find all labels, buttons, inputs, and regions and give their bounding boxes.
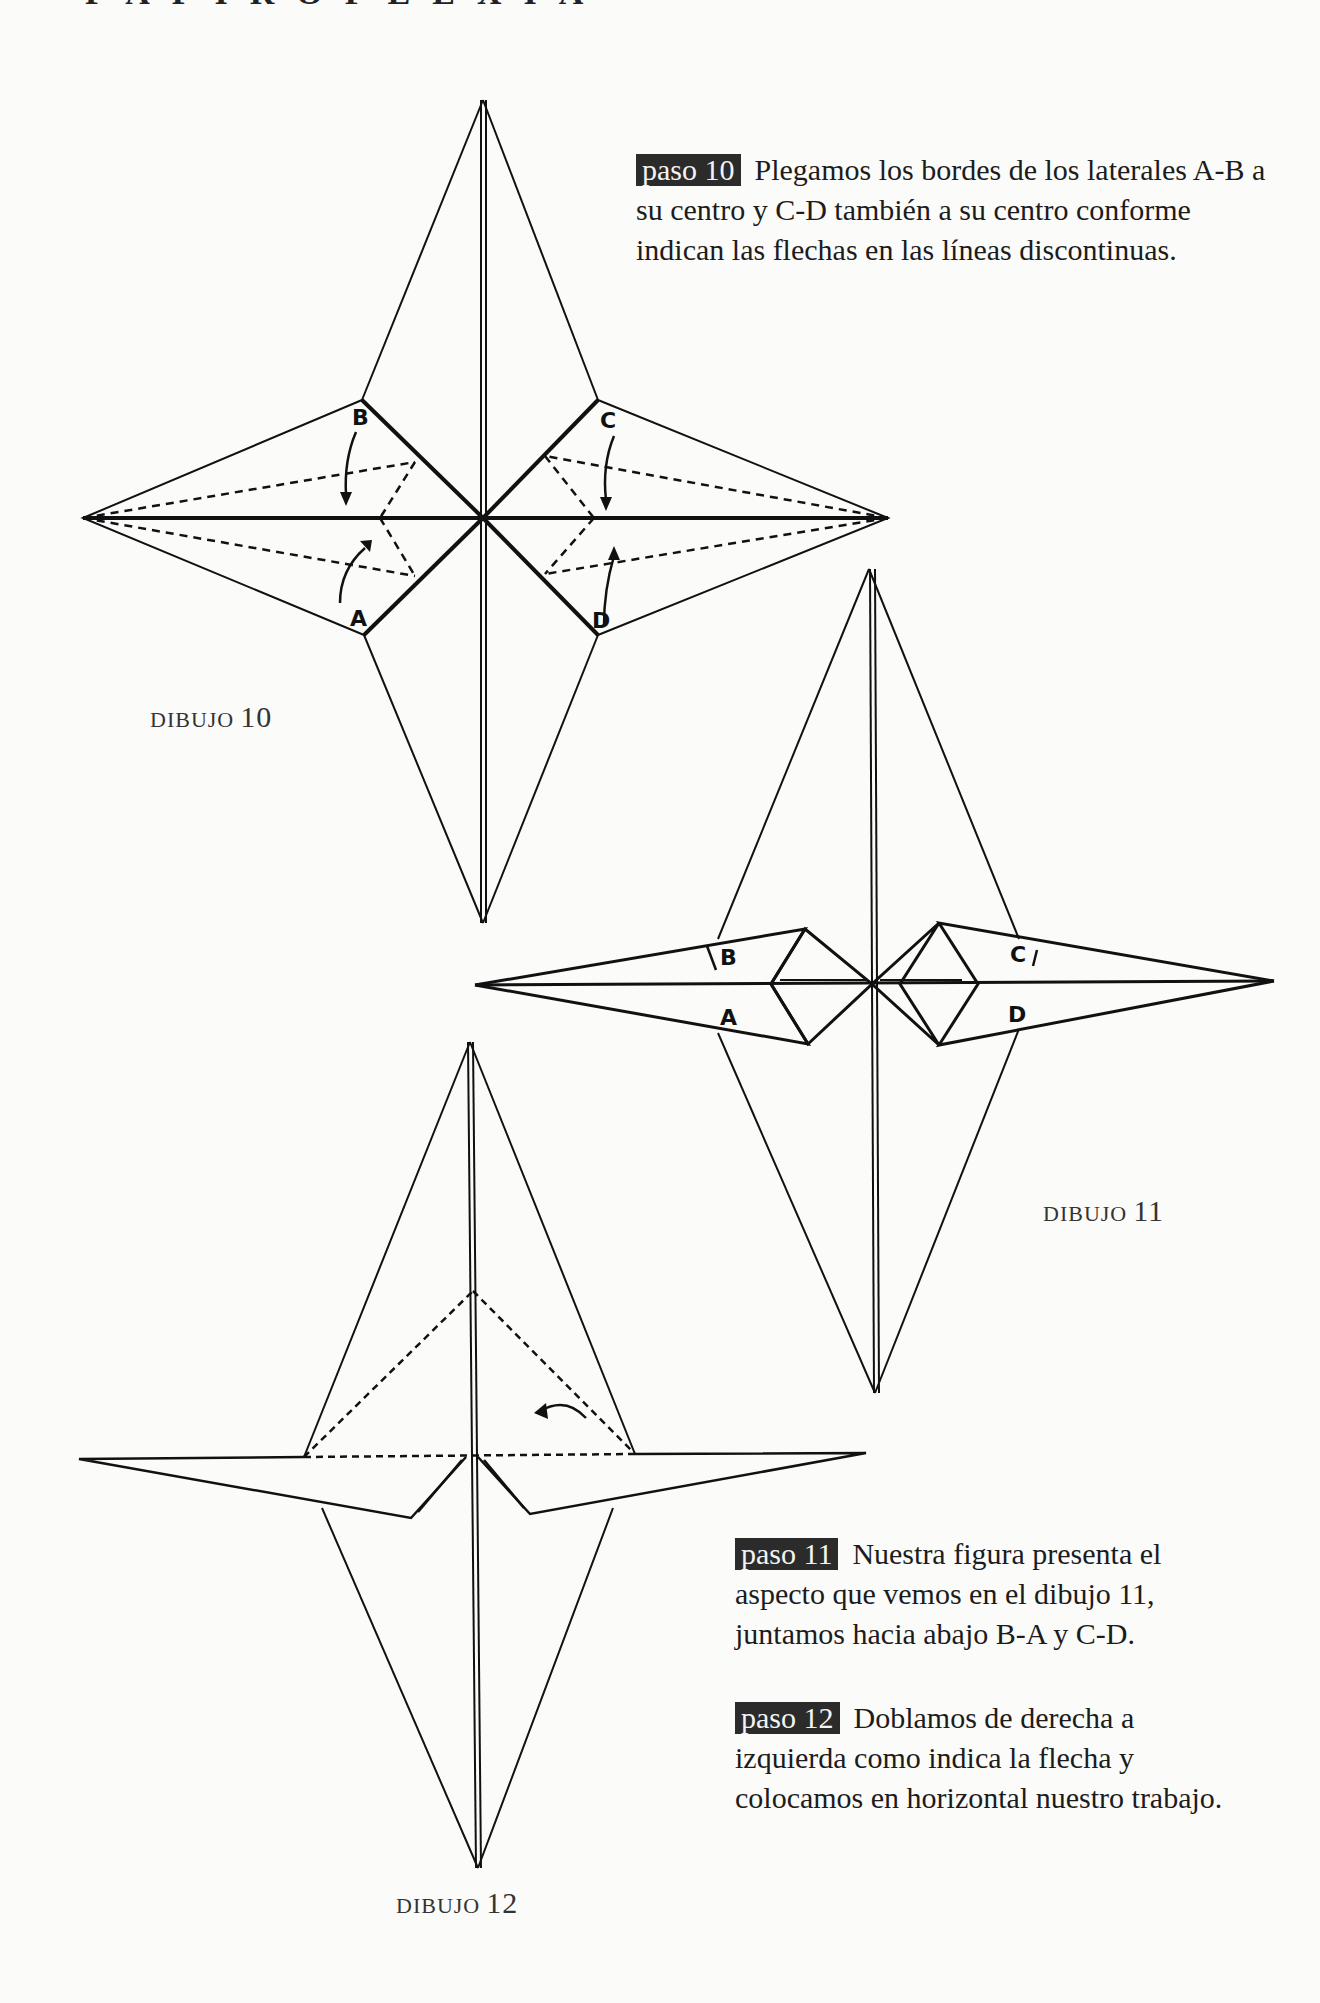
- point-c-label: C: [600, 408, 616, 433]
- step-11-instruction: paso 11Nuestra figura presenta el aspect…: [735, 1534, 1255, 1654]
- caption-number: 11: [1133, 1194, 1164, 1227]
- point-c-label: C: [1010, 942, 1026, 967]
- caption-number: 12: [486, 1886, 518, 1919]
- caption-label: DIBUJO: [396, 1893, 480, 1918]
- drawing-12-caption: DIBUJO12: [396, 1886, 518, 1920]
- point-b-label: B: [720, 945, 737, 970]
- caption-label: DIBUJO: [150, 707, 234, 732]
- step-12-instruction: paso 12Doblamos de derecha a izquierda c…: [735, 1698, 1235, 1818]
- step-badge: paso 12: [735, 1702, 840, 1734]
- drawing-11-caption: DIBUJO11: [1043, 1194, 1164, 1228]
- step-badge: paso 11: [735, 1538, 838, 1570]
- point-a-label: A: [350, 606, 367, 631]
- point-d-label: D: [1008, 1002, 1026, 1027]
- step-badge: paso 10: [636, 154, 741, 186]
- caption-label: DIBUJO: [1043, 1201, 1127, 1226]
- caption-number: 10: [240, 700, 272, 733]
- step-10-instruction: paso 10Plegamos los bordes de los latera…: [636, 150, 1276, 270]
- point-d-label: D: [592, 608, 610, 633]
- point-b-label: B: [352, 405, 369, 430]
- drawing-10-caption: DIBUJO10: [150, 700, 272, 734]
- drawing-11: B A C D: [475, 569, 1274, 1393]
- point-a-label: A: [720, 1005, 737, 1030]
